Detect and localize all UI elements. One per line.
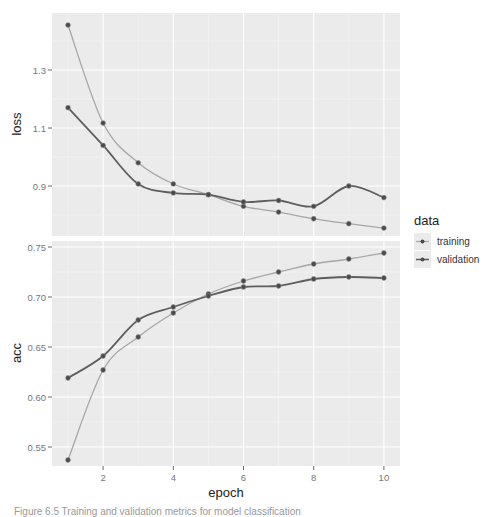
acc-training-point [311, 262, 316, 267]
x-tick-label: 8 [311, 472, 316, 483]
loss-axis-label: loss [9, 112, 24, 136]
acc-panel [52, 241, 400, 466]
acc-training-point [171, 311, 176, 316]
loss-training-point [382, 226, 387, 231]
legend-key-training-icon [414, 233, 431, 250]
loss-validation-point [136, 182, 141, 187]
acc-training-point [241, 279, 246, 284]
loss-validation-point [101, 143, 106, 148]
acc-y-tick-label: 0.55 [28, 442, 47, 453]
x-axis-label: epoch [208, 485, 243, 500]
loss-y-tick-label: 1.3 [33, 65, 46, 76]
legend-item-validation: validation [414, 250, 479, 268]
acc-training-point [382, 251, 387, 256]
acc-training-point [66, 458, 71, 463]
loss-training-point [66, 23, 71, 28]
acc-validation-point [241, 285, 246, 290]
legend-key-validation-icon [414, 251, 431, 268]
acc-training-point [101, 368, 106, 373]
loss-training-point [276, 210, 281, 215]
loss-validation-point [206, 192, 211, 197]
legend-item-training: training [414, 232, 479, 250]
acc-validation-point [276, 284, 281, 289]
acc-validation-point [206, 294, 211, 299]
acc-y-tick-label: 0.60 [28, 392, 47, 403]
acc-validation-point [346, 275, 351, 280]
x-tick-label: 10 [379, 472, 390, 483]
loss-training-point [311, 216, 316, 221]
loss-panel [52, 13, 400, 236]
legend-label-validation: validation [437, 254, 479, 265]
loss-training-point [346, 221, 351, 226]
acc-validation-point [311, 277, 316, 282]
acc-training-point [276, 270, 281, 275]
acc-validation-point [382, 276, 387, 281]
loss-validation-point [382, 195, 387, 200]
acc-validation-point [136, 318, 141, 323]
loss-validation-point [276, 198, 281, 203]
loss-y-tick-label: 0.9 [33, 181, 46, 192]
acc-validation-point [171, 305, 176, 310]
loss-validation-point [241, 200, 246, 205]
acc-y-tick-label: 0.75 [28, 242, 47, 253]
loss-training-point [136, 160, 141, 165]
acc-training-point [346, 257, 351, 262]
legend-label-training: training [437, 236, 470, 247]
acc-training-point [136, 335, 141, 340]
loss-validation-point [346, 184, 351, 189]
acc-validation-point [101, 354, 106, 359]
legend: data training validation [414, 213, 479, 268]
loss-y-tick-label: 1.1 [33, 123, 46, 134]
x-tick-label: 2 [100, 472, 105, 483]
x-tick-label: 4 [171, 472, 176, 483]
loss-training-point [171, 182, 176, 187]
figure-caption: Figure 6.5 Training and validation metri… [14, 506, 301, 517]
loss-validation-point [66, 105, 71, 110]
acc-axis-label: acc [9, 342, 24, 363]
acc-y-tick-label: 0.65 [28, 342, 47, 353]
loss-validation-point [311, 204, 316, 209]
x-tick-label: 6 [241, 472, 246, 483]
legend-title: data [414, 213, 479, 228]
loss-validation-point [171, 191, 176, 196]
loss-training-point [101, 121, 106, 126]
acc-validation-point [66, 376, 71, 381]
acc-y-tick-label: 0.70 [28, 292, 47, 303]
